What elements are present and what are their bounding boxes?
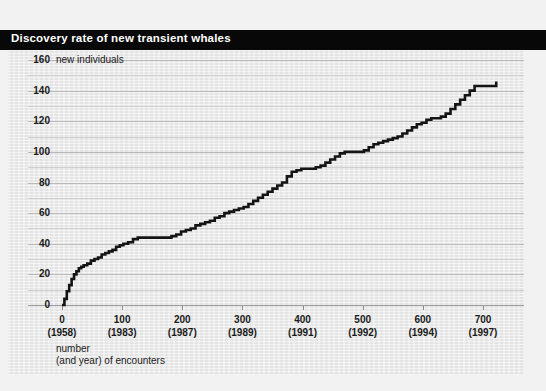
screenshot-root: Discovery rate of new transient whales 0… — [0, 0, 546, 391]
page-title: Discovery rate of new transient whales — [11, 32, 231, 44]
discovery-curve — [8, 50, 524, 375]
chart-panel: 020406080100120140160new individuals0(19… — [8, 50, 524, 375]
